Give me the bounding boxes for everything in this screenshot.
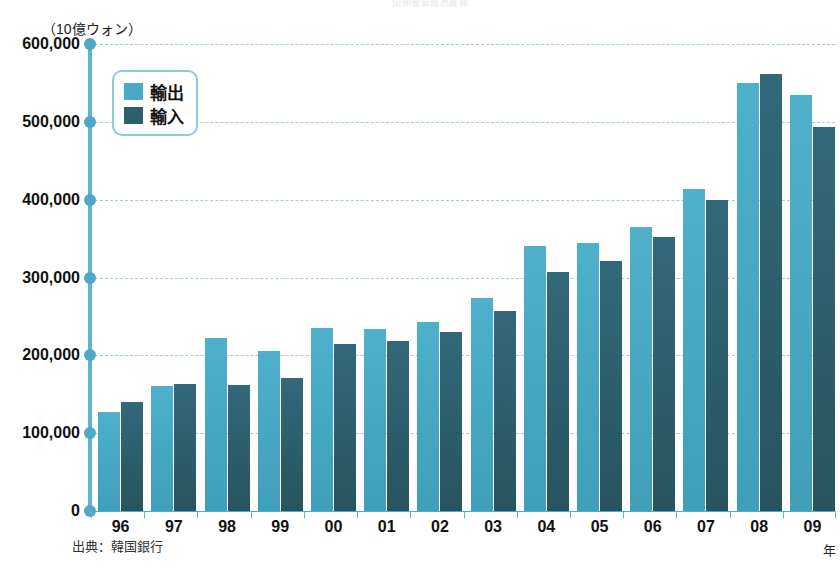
x-tick-mark: [410, 511, 411, 518]
x-tick-label: 07: [684, 518, 728, 536]
bar-export[interactable]: [577, 243, 599, 511]
bar-import[interactable]: [387, 341, 409, 511]
y-tick-label: 500,000: [2, 113, 80, 131]
x-tick-label: 01: [365, 518, 409, 536]
x-tick-label: 00: [311, 518, 355, 536]
bar-group: [737, 44, 782, 511]
x-tick-label: 03: [471, 518, 515, 536]
y-tick-label: 200,000: [2, 346, 80, 364]
bar-group: [417, 44, 462, 511]
bar-export[interactable]: [417, 322, 439, 511]
bar-export[interactable]: [630, 227, 652, 511]
x-tick-mark: [783, 511, 784, 518]
x-tick-mark: [570, 511, 571, 518]
bar-import[interactable]: [813, 127, 835, 511]
bar-import[interactable]: [174, 384, 196, 511]
bar-series-layer: [90, 44, 835, 511]
x-tick-mark: [464, 511, 465, 518]
x-tick-label: 05: [578, 518, 622, 536]
bar-import[interactable]: [228, 385, 250, 511]
x-tick-mark: [251, 511, 252, 518]
bar-import[interactable]: [547, 272, 569, 511]
y-tick-label: 0: [2, 502, 80, 520]
top-cut-caption: 国別貿易額の推移: [220, 0, 640, 7]
y-tick-label: 400,000: [2, 191, 80, 209]
bar-group: [630, 44, 675, 511]
bar-chart: 国別貿易額の推移 （10億ウォン） 600,000500,000400,0003…: [0, 0, 840, 572]
legend: 輸出 輸入: [112, 70, 198, 136]
bar-import[interactable]: [600, 261, 622, 511]
bar-group: [364, 44, 409, 511]
bar-export[interactable]: [151, 386, 173, 511]
legend-label-export: 輸出: [150, 79, 184, 104]
bar-export[interactable]: [205, 338, 227, 511]
legend-item-export[interactable]: 輸出: [124, 79, 184, 103]
bar-export[interactable]: [471, 298, 493, 511]
legend-swatch-export-icon: [124, 83, 143, 100]
x-tick-mark: [730, 511, 731, 518]
x-tick-mark: [517, 511, 518, 518]
gridline-0: [90, 511, 835, 512]
x-tick-mark: [676, 511, 677, 518]
x-tick-label: 97: [152, 518, 196, 536]
bar-import[interactable]: [121, 402, 143, 511]
bar-group: [790, 44, 835, 511]
x-tick-label: 98: [205, 518, 249, 536]
x-tick-mark: [197, 511, 198, 518]
y-tick-label: 600,000: [2, 35, 80, 53]
legend-label-import: 輸入: [150, 103, 184, 128]
x-tick-label: 09: [790, 518, 834, 536]
bar-group: [205, 44, 250, 511]
x-tick-mark: [144, 511, 145, 518]
x-tick-label: 08: [737, 518, 781, 536]
bar-group: [524, 44, 569, 511]
bar-import[interactable]: [706, 200, 728, 511]
y-tick-label: 300,000: [2, 269, 80, 287]
bar-import[interactable]: [653, 237, 675, 511]
bar-import[interactable]: [760, 74, 782, 511]
bar-export[interactable]: [524, 246, 546, 511]
bar-group: [471, 44, 516, 511]
bar-export[interactable]: [311, 328, 333, 511]
x-tick-mark: [623, 511, 624, 518]
bar-export[interactable]: [258, 351, 280, 511]
x-tick-label: 99: [258, 518, 302, 536]
bar-import[interactable]: [440, 332, 462, 511]
bar-import[interactable]: [494, 311, 516, 511]
x-tick-label: 04: [524, 518, 568, 536]
bar-group: [258, 44, 303, 511]
source-note: 出典：韓国銀行: [72, 536, 163, 555]
x-tick-label: 02: [418, 518, 462, 536]
x-tick-mark: [357, 511, 358, 518]
bar-export[interactable]: [683, 189, 705, 511]
x-tick-mark: [835, 511, 836, 518]
bar-group: [577, 44, 622, 511]
x-tick-label: 06: [631, 518, 675, 536]
bar-export[interactable]: [364, 329, 386, 511]
bar-export[interactable]: [737, 83, 759, 511]
x-tick-mark: [304, 511, 305, 518]
bar-group: [683, 44, 728, 511]
legend-swatch-import-icon: [124, 107, 143, 124]
x-axis-title: 年: [823, 540, 836, 559]
bar-import[interactable]: [281, 378, 303, 511]
y-tick-label: 100,000: [2, 424, 80, 442]
legend-item-import[interactable]: 輸入: [124, 103, 184, 127]
x-tick-mark: [91, 511, 92, 518]
bar-group: [311, 44, 356, 511]
bar-import[interactable]: [334, 344, 356, 511]
bar-export[interactable]: [98, 412, 120, 511]
x-tick-label: 96: [99, 518, 143, 536]
y-axis-tick-labels: 600,000500,000400,000300,000200,000100,0…: [0, 44, 80, 511]
bar-export[interactable]: [790, 95, 812, 511]
